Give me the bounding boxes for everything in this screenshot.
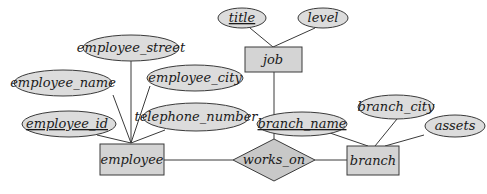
entity-branch-label: branch: [350, 153, 396, 168]
attribute-employee-street-label: employee_street: [77, 40, 186, 55]
attribute-title-label: title: [229, 10, 256, 25]
relationship-works-on-label: works_on: [243, 152, 305, 167]
entity-branch: branch: [347, 146, 399, 175]
entity-job: job: [245, 47, 302, 72]
line-branch-name: [330, 133, 368, 146]
attribute-branch-name: branch_name: [257, 112, 347, 136]
attribute-assets: assets: [425, 115, 485, 137]
line-employee-id: [97, 135, 131, 143]
line-job-level: [273, 28, 315, 47]
attribute-title: title: [218, 8, 266, 28]
attribute-level: level: [298, 8, 348, 28]
relationship-works-on: works_on: [233, 139, 315, 181]
attribute-branch-city-label: branch_city: [358, 99, 435, 114]
entity-employee: employee: [100, 144, 164, 175]
line-employee-name: [113, 95, 131, 143]
line-branch-city: [375, 119, 397, 146]
attribute-level-label: level: [307, 10, 338, 25]
attribute-assets-label: assets: [435, 118, 476, 133]
attribute-employee-street: employee_street: [77, 35, 186, 61]
attribute-employee-id-label: employee_id: [26, 116, 108, 131]
attribute-branch-name-label: branch_name: [258, 116, 347, 131]
line-job-title: [250, 28, 273, 47]
attribute-employee-name-label: employee_name: [10, 75, 116, 90]
line-telephone-number: [131, 130, 165, 143]
attribute-branch-city: branch_city: [358, 95, 435, 119]
entity-employee-label: employee: [100, 152, 163, 167]
line-branch-assets: [385, 135, 424, 146]
attribute-employee-city: employee_city: [147, 65, 243, 91]
er-diagram: title level job employee_street employee…: [0, 0, 487, 194]
attribute-telephone-number: telephone_number: [134, 103, 258, 131]
attribute-employee-city-label: employee_city: [148, 70, 242, 85]
attribute-employee-id: employee_id: [22, 111, 116, 137]
attribute-telephone-number-label: telephone_number: [134, 109, 258, 124]
entity-job-label: job: [260, 52, 283, 67]
attribute-employee-name: employee_name: [10, 70, 116, 96]
